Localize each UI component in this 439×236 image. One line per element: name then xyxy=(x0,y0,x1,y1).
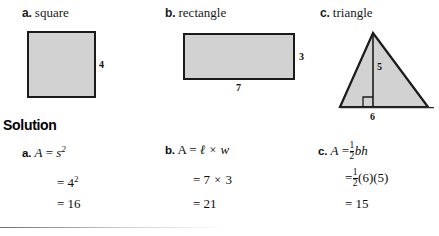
solution-b-formula-equals: = xyxy=(189,142,196,157)
solution-c-line2-equals: = xyxy=(345,170,352,185)
solution-a-line3-equals: = xyxy=(57,196,64,211)
rectangle-width-dimension-label: 7 xyxy=(236,83,241,93)
solution-c-line2: = 1 2 (6)(5) xyxy=(345,168,388,188)
solution-a-formula: a. A = s2 xyxy=(22,142,66,161)
square-side-dimension-label: 4 xyxy=(99,60,104,70)
solution-b-line2: = 7 × 3 xyxy=(193,172,232,188)
solution-c-line2-fraction: 1 2 xyxy=(353,168,358,188)
triangle-svg xyxy=(330,28,438,114)
solution-c-formula-fraction-numerator: 1 xyxy=(350,141,355,151)
solution-b-formula-variable: A xyxy=(177,142,186,157)
solution-c-line2-fraction-denominator: 2 xyxy=(353,178,358,189)
solution-b-formula: b. A = ℓ × w xyxy=(165,142,229,158)
solution-c-formula-fraction: 1 2 xyxy=(350,141,355,161)
solution-c-line3: = 15 xyxy=(345,196,369,211)
triangle-body xyxy=(340,33,428,107)
solution-b-formula-times: × xyxy=(209,143,218,157)
solution-c-line3-value: 15 xyxy=(356,196,369,211)
solution-a-formula-equals: = xyxy=(46,145,53,160)
shape-caption-rectangle: b. rectangle xyxy=(165,6,226,20)
solution-b-formula-length: ℓ xyxy=(200,142,205,157)
solution-a-line2-exponent: 2 xyxy=(74,174,79,184)
figure-triangle xyxy=(330,28,438,114)
figure-rectangle xyxy=(183,33,295,80)
worksheet-page: a. square b. rectangle c. triangle 4 3 7… xyxy=(0,0,439,236)
solution-b-line2-equals: = xyxy=(193,172,200,187)
solution-c-formula-fraction-denominator: 2 xyxy=(350,151,355,162)
solution-c-tag: c. xyxy=(318,145,327,157)
solution-a-formula-variable: A xyxy=(34,145,42,160)
solution-c-line3-equals: = xyxy=(345,196,352,211)
shape-caption-rectangle-tag: b. xyxy=(165,6,175,20)
shape-caption-triangle-tag: c. xyxy=(320,6,330,20)
solution-b-line2-second: 3 xyxy=(225,172,232,187)
shape-caption-square: a. square xyxy=(22,6,69,20)
solution-a-line3-value: 16 xyxy=(68,196,81,211)
shape-caption-triangle-name: triangle xyxy=(333,5,373,20)
solution-c-formula: c. A = 1 2 bh xyxy=(318,141,368,161)
solution-b-line3-equals: = xyxy=(193,196,200,211)
solution-b-tag: b. xyxy=(165,144,175,156)
solution-a-tag: a. xyxy=(22,147,31,159)
solution-c-line2-fraction-numerator: 1 xyxy=(353,168,358,178)
shape-caption-rectangle-name: rectangle xyxy=(179,5,227,20)
solution-b-line3: = 21 xyxy=(193,196,217,211)
triangle-height-dimension-label: 5 xyxy=(377,62,382,72)
solution-a-line3: = 16 xyxy=(57,196,81,211)
rectangle-height-dimension-label: 3 xyxy=(299,52,304,62)
shape-caption-square-tag: a. xyxy=(22,6,32,20)
solution-a-line2: = 42 xyxy=(57,172,79,190)
shape-caption-square-name: square xyxy=(35,5,69,20)
solution-b-line3-value: 21 xyxy=(204,196,217,211)
solution-b-formula-width: w xyxy=(221,142,230,157)
solution-a-line2-equals: = xyxy=(57,175,64,190)
figure-square xyxy=(27,31,96,98)
bottom-divider xyxy=(0,227,230,228)
shape-caption-triangle: c. triangle xyxy=(320,6,373,20)
solution-c-line2-body: (6)(5) xyxy=(358,170,388,185)
solution-b-line2-times: × xyxy=(213,173,222,187)
solution-c-formula-body: bh xyxy=(355,143,368,158)
triangle-base-dimension-label: 6 xyxy=(370,112,375,122)
solution-c-formula-variable: A xyxy=(330,143,338,158)
solution-b-line2-first: 7 xyxy=(204,172,211,187)
solution-heading: Solution xyxy=(3,118,57,133)
solution-a-formula-exponent: 2 xyxy=(61,144,66,154)
solution-c-formula-equals: = xyxy=(342,143,349,158)
